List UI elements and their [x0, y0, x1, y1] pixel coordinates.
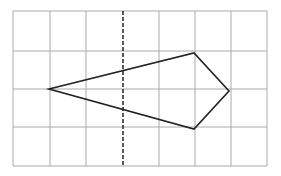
grid-diagram	[0, 0, 281, 176]
kite-polygon	[49, 53, 229, 129]
